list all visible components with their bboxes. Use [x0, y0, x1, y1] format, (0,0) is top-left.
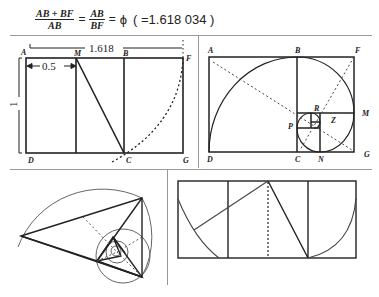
panel-top-left: 1.618 0.5 1 A M B F D C G: [7, 40, 192, 165]
point-label-r: R: [313, 104, 320, 113]
point-label-c: C: [295, 155, 301, 164]
point-label-n: N: [317, 155, 325, 164]
point-label-f: F: [354, 46, 361, 55]
point-label-m: M: [73, 49, 82, 58]
point-label-p: P: [288, 122, 293, 131]
point-label-b: B: [294, 46, 301, 55]
point-label-d: D: [206, 155, 213, 164]
point-label-g: G: [364, 150, 370, 159]
point-label-a: A: [207, 46, 214, 55]
panel-top-right: A B F M R Z P D C N G: [206, 46, 370, 164]
panel-bottom-left: [18, 189, 152, 283]
point-label-z: Z: [330, 116, 336, 125]
point-label-m: M: [361, 109, 370, 118]
point-label-g: G: [183, 156, 189, 165]
panel-bottom-right: [178, 181, 356, 258]
dimension-height-label: 1: [7, 102, 19, 108]
point-label-f: F: [185, 54, 192, 63]
point-label-d: D: [27, 156, 34, 165]
dimension-width-label: 1.618: [89, 42, 114, 54]
point-label-a: A: [20, 48, 27, 57]
point-label-c: C: [126, 156, 132, 165]
point-label-b: B: [122, 49, 129, 58]
dimension-half-label: 0.5: [42, 60, 56, 72]
diagram-canvas: 1.618 0.5 1 A M B F D C G: [0, 0, 379, 297]
